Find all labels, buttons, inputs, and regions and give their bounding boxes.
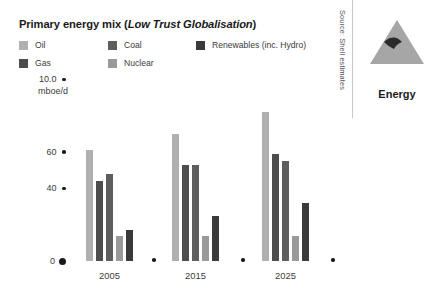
bar-oil-2025: [262, 112, 269, 261]
bar-group-2025: [262, 260, 309, 261]
plot-area: 10.060400200520152025: [0, 0, 340, 295]
bar-coal-2005: [106, 174, 113, 261]
y-axis-tick-0: 0: [24, 255, 66, 267]
bar-renewables-2015: [212, 216, 219, 261]
y-axis-tick-10.0: 10.0: [24, 73, 66, 85]
y-axis-tick-dot: [62, 187, 66, 191]
bar-group-2005: [86, 260, 133, 261]
y-axis-tick-label: 10.0: [39, 75, 57, 84]
shell-pecten-logo: [368, 18, 426, 66]
bar-group-bars: [172, 134, 219, 261]
rail-divider: [352, 0, 353, 118]
x-axis-label-2025: 2025: [252, 270, 319, 281]
x-axis-label-2015: 2015: [162, 270, 229, 281]
bar-renewables-2025: [302, 203, 309, 261]
chart-screenshot: Primary energy mix (Low Trust Globalisat…: [0, 0, 435, 295]
bar-gas-2015: [182, 165, 189, 261]
bar-coal-2015: [192, 165, 199, 261]
bar-group-2015: [172, 260, 219, 261]
bar-nuclear-2015: [202, 236, 209, 261]
baseline-separator-dot-2: [241, 258, 245, 262]
bar-group-bars: [262, 112, 309, 261]
y-axis-tick-40: 40: [24, 182, 66, 194]
y-axis-tick-60: 60: [24, 146, 66, 158]
y-axis-tick-dot: [62, 78, 66, 82]
bar-renewables-2005: [126, 230, 133, 261]
y-axis-tick-label: 0: [50, 257, 55, 266]
source-note: Source: Shell estimates: [338, 10, 347, 90]
logo-caption: Energy: [368, 88, 426, 100]
bar-nuclear-2025: [292, 236, 299, 261]
bar-gas-2005: [96, 181, 103, 261]
baseline-separator-dot-3: [331, 258, 335, 262]
shell-pecten-triangle-icon: [368, 18, 426, 66]
bar-oil-2015: [172, 134, 179, 261]
baseline-separator-dot-1: [152, 258, 156, 262]
x-axis-label-2005: 2005: [76, 270, 143, 281]
y-axis-tick-label: 60: [46, 148, 56, 157]
y-axis-tick-label: 40: [46, 184, 56, 193]
bar-gas-2025: [272, 154, 279, 261]
bar-nuclear-2005: [116, 236, 123, 261]
y-axis-tick-dot: [59, 258, 66, 265]
y-axis-tick-dot: [62, 150, 66, 154]
bar-coal-2025: [282, 161, 289, 261]
bar-oil-2005: [86, 150, 93, 261]
bar-group-bars: [86, 150, 133, 261]
